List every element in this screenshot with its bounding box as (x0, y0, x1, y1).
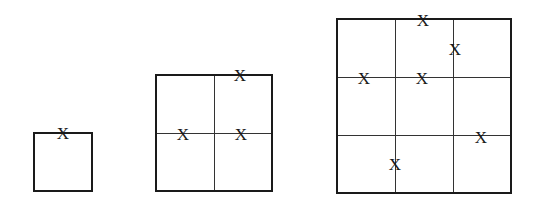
x-mark: X (177, 126, 189, 143)
x-mark: X (417, 12, 429, 29)
grid-line-horizontal (157, 133, 271, 134)
x-mark: X (416, 70, 428, 87)
x-mark: X (235, 126, 247, 143)
x-mark: X (358, 70, 370, 87)
grid-3x3 (336, 18, 512, 194)
x-mark: X (475, 129, 487, 146)
x-mark: X (234, 67, 246, 84)
grid-2x2 (155, 74, 273, 192)
x-mark: X (57, 125, 69, 142)
x-mark: X (389, 156, 401, 173)
x-mark: X (449, 41, 461, 58)
